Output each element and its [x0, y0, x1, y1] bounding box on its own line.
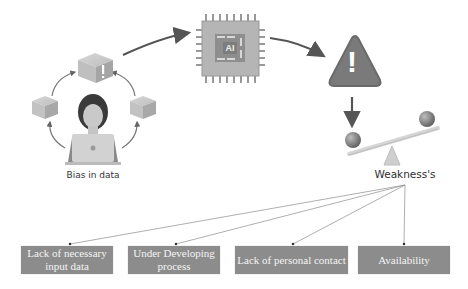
cube-icon-right — [130, 96, 156, 119]
balance-label: Weakness's — [370, 168, 440, 180]
weakness-box-developing-process: Under Developing process — [128, 246, 220, 274]
weakness-box-availability: Availability — [358, 246, 450, 274]
weakness-connectors — [70, 185, 405, 244]
weakness-box-personal-contact: Lack of personal contact — [235, 246, 348, 274]
warning-exclamation: ! — [343, 44, 361, 80]
balance-scale-icon — [345, 111, 438, 165]
ai-chip-label: AI — [223, 42, 237, 54]
person-laptop-icon — [65, 94, 121, 165]
source-label: Bias in data — [60, 170, 126, 180]
weakness-box-input-data: Lack of necessary input data — [21, 246, 113, 274]
cube-icon-left — [32, 96, 58, 119]
cube-icon-top — [78, 53, 113, 83]
